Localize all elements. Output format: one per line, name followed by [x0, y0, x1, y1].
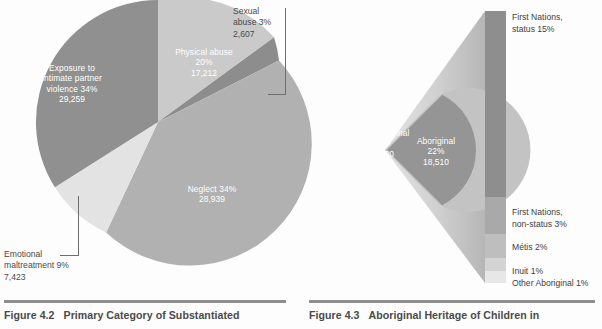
bar-segment-first-nations-status	[485, 11, 506, 197]
bar-label-first-nations-non-status: First Nations, non-status 3%	[512, 207, 567, 230]
callout-line: Emotional	[4, 249, 69, 260]
pie-and-breakout-group	[301, 0, 602, 296]
bar-label-inuit: Inuit 1%	[512, 266, 543, 278]
callout-line: 2,607	[233, 29, 271, 40]
bar-label-line: status 15%	[512, 24, 563, 36]
bar-label-other-aboriginal: Other Aboriginal 1%	[512, 278, 588, 290]
caption-rule	[309, 300, 595, 303]
breakout-stacked-bar	[485, 11, 506, 283]
callout-line: Sexual	[233, 6, 271, 17]
bar-label-line: Inuit 1%	[512, 266, 543, 278]
bar-label-line: First Nations,	[512, 12, 563, 24]
bar-label-line: Métis 2%	[512, 242, 547, 254]
callout-line: abuse 3%	[233, 17, 271, 28]
bar-label-line: non-status 3%	[512, 219, 567, 231]
callout-line: 7,423	[4, 272, 69, 283]
caption-text: Aboriginal Heritage of Children in	[369, 309, 540, 321]
caption-number: Figure 4.3	[309, 309, 360, 321]
leader-line-sexual-abuse-horizontal	[268, 94, 286, 95]
pie-chart-primary-category: Physical abuse 20% 17,212 Neglect 34% 28…	[0, 0, 301, 296]
bar-segment-inuit	[485, 258, 506, 270]
leader-line-emotional-vertical	[78, 196, 79, 256]
pie-chart-aboriginal-heritage: Non-Aboriginal 78% 66,930 Aboriginal 22%…	[301, 0, 602, 296]
figure-4-3: Non-Aboriginal 78% 66,930 Aboriginal 22%…	[301, 0, 602, 329]
bar-label-line: Other Aboriginal 1%	[512, 278, 588, 290]
caption-rule	[4, 300, 286, 303]
figure-4-2: Physical abuse 20% 17,212 Neglect 34% 28…	[0, 0, 301, 329]
bar-label-metis: Métis 2%	[512, 242, 547, 254]
callout-emotional-maltreatment: Emotional maltreatment 9% 7,423	[4, 249, 69, 283]
bar-label-line: First Nations,	[512, 207, 567, 219]
bar-segment-metis	[485, 234, 506, 259]
bar-segment-first-nations-non-status	[485, 197, 506, 234]
caption-number: Figure 4.2	[4, 309, 55, 321]
callout-sexual-abuse: Sexual abuse 3% 2,607	[233, 6, 271, 40]
figure-caption-4-3: Figure 4.3Aboriginal Heritage of Childre…	[309, 309, 539, 321]
caption-text: Primary Category of Substantiated	[64, 309, 240, 321]
callout-line: maltreatment 9%	[4, 260, 69, 271]
figure-caption-4-2: Figure 4.2Primary Category of Substantia…	[4, 309, 239, 321]
figure-page: Physical abuse 20% 17,212 Neglect 34% 28…	[0, 0, 602, 329]
bar-label-first-nations-status: First Nations, status 15%	[512, 12, 563, 35]
bar-segment-other-aboriginal	[485, 271, 506, 283]
leader-line-sexual-abuse-vertical	[285, 8, 286, 95]
